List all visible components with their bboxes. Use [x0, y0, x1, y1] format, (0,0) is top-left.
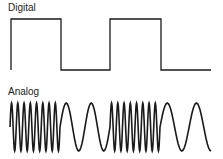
- signal-diagram: [0, 0, 223, 159]
- analog-sine-wave: [10, 103, 211, 151]
- digital-square-wave: [11, 19, 211, 70]
